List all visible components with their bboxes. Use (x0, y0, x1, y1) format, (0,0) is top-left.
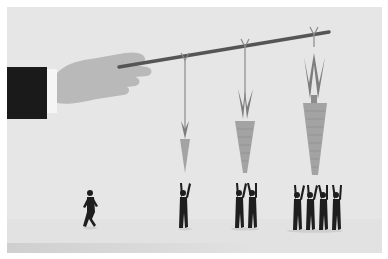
reaching-businessmen-pair-icon (231, 183, 259, 231)
reaching-businessmen-group-icon (287, 185, 343, 233)
walking-businessman-icon (83, 190, 98, 230)
sleeve (7, 67, 47, 119)
carrot-large-icon (303, 27, 327, 175)
stick (119, 32, 329, 67)
arm (7, 67, 57, 119)
illustration-frame (7, 7, 382, 253)
shirt-cuff (47, 69, 57, 113)
carrot-medium-icon (235, 39, 255, 173)
hand-icon (57, 52, 152, 103)
reaching-businessman-icon (178, 183, 192, 231)
carrot-stick-scene (7, 7, 382, 253)
carrot-small-icon (180, 53, 190, 173)
